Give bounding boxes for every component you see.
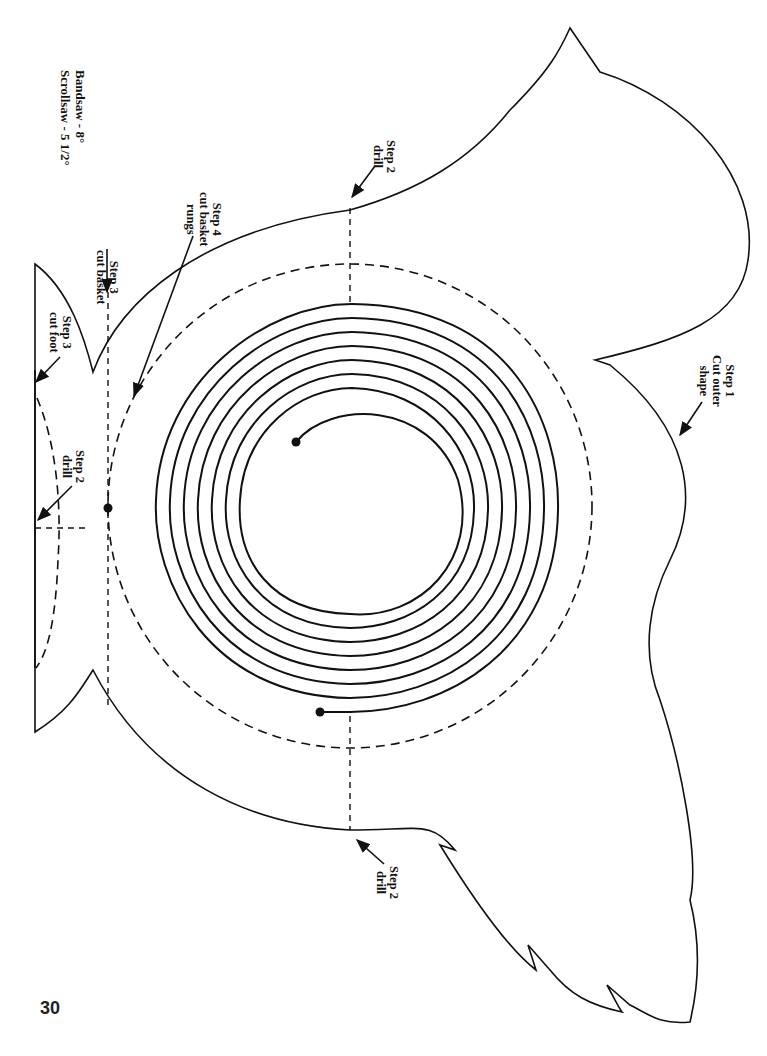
step4-label: Step 4 cut basket rungs: [184, 192, 223, 247]
basket-dashed-circle: [108, 264, 592, 748]
step3-foot-arrow: [36, 357, 60, 382]
step2-bottom-arrow: [357, 840, 384, 864]
step2-bottom-label: Step 2 drill: [374, 866, 400, 899]
step4-arrow: [134, 236, 193, 396]
bandsaw-angle: Bandsaw - 8°: [73, 70, 88, 166]
step1-label: Step 1 Cut outer shape: [697, 355, 736, 407]
page-number: 30: [40, 998, 60, 1019]
spiral-end-dot: [316, 708, 325, 717]
saw-angle-note: Bandsaw - 8° Scrollsaw - 5 1/2°: [58, 70, 88, 166]
foot-cut-line: [36, 398, 59, 668]
step3-foot-label: Step 3 cut foot: [47, 312, 73, 353]
scrollsaw-angle: Scrollsaw - 5 1/2°: [58, 70, 73, 166]
basket-drill-dot: [104, 504, 113, 513]
step2-foot-label: Step 2 drill: [60, 450, 86, 483]
step1-arrow: [680, 402, 702, 435]
step2-foot-arrow: [38, 486, 72, 520]
basket-spiral: [156, 304, 558, 712]
step3-basket-label: Step 3 cut basket: [94, 250, 120, 305]
spiral-start-dot: [292, 438, 301, 447]
step2-top-label: Step 2 drill: [371, 140, 397, 173]
